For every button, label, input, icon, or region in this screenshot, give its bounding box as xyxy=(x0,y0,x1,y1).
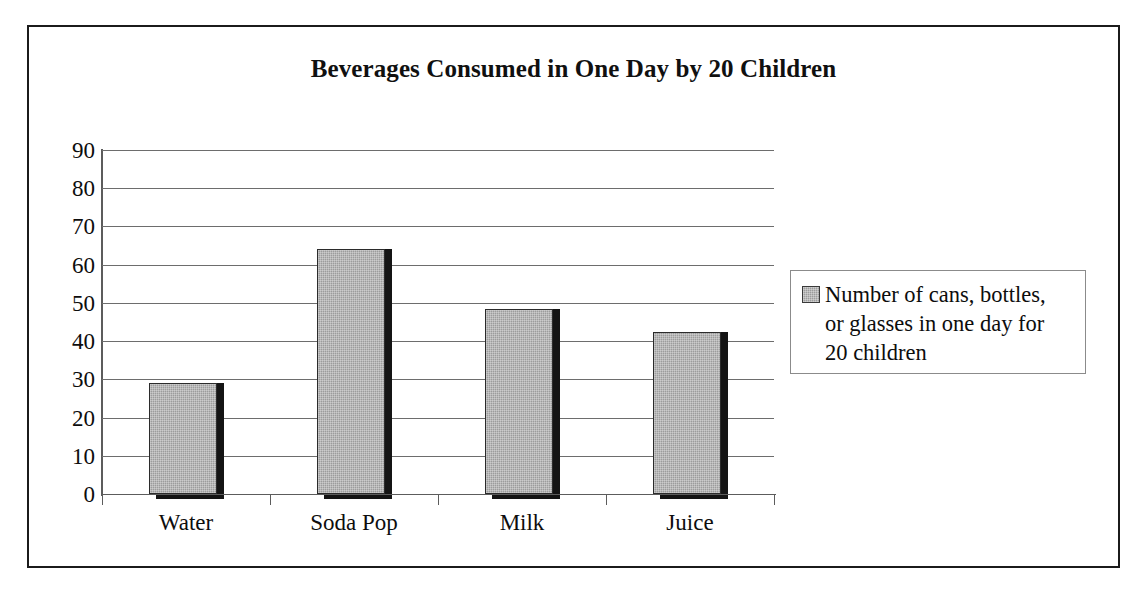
x-axis-line xyxy=(102,494,776,495)
y-axis-tick-label: 30 xyxy=(53,368,95,391)
x-axis-label-water: Water xyxy=(102,509,270,537)
legend-swatch-icon xyxy=(802,286,820,303)
x-axis-tick-mark xyxy=(774,495,775,505)
x-axis-tick-mark xyxy=(270,495,271,505)
y-axis-tick-label: 70 xyxy=(53,215,95,238)
bar-milk[interactable] xyxy=(485,309,553,494)
chart-title: Beverages Consumed in One Day by 20 Chil… xyxy=(29,55,1118,83)
bar-shadow xyxy=(721,332,728,499)
legend-entry: Number of cans, bottles, or glasses in o… xyxy=(802,280,1077,367)
legend-label-line-2: or glasses in one day for xyxy=(825,311,1044,336)
x-axis-label-soda-pop: Soda Pop xyxy=(270,509,438,537)
y-axis-tick-label: 50 xyxy=(53,292,95,315)
bar-juice[interactable] xyxy=(653,332,721,494)
bar-soda-pop[interactable] xyxy=(317,249,385,494)
gridline xyxy=(102,265,774,266)
y-axis-tick-labels: 9080706050403020100 xyxy=(43,150,95,494)
y-axis-tick-label: 90 xyxy=(53,139,95,162)
legend-label: Number of cans, bottles, or glasses in o… xyxy=(825,280,1046,367)
legend-label-line-1: Number of cans, bottles, xyxy=(825,282,1046,307)
y-axis-tick-label: 40 xyxy=(53,330,95,353)
gridline xyxy=(102,150,774,151)
x-axis-tick-mark xyxy=(606,495,607,505)
gridline xyxy=(102,226,774,227)
gridline xyxy=(102,188,774,189)
legend-label-line-3: 20 children xyxy=(825,340,927,365)
x-axis-tick-mark xyxy=(102,495,103,505)
y-axis-tick-label: 60 xyxy=(53,254,95,277)
gridline xyxy=(102,303,774,304)
y-axis-tick-label: 80 xyxy=(53,177,95,200)
bar-shadow xyxy=(385,249,392,499)
bar-shadow xyxy=(217,383,224,499)
plot-area xyxy=(102,150,774,494)
chart-frame: Beverages Consumed in One Day by 20 Chil… xyxy=(27,25,1120,568)
y-axis-tick-label: 10 xyxy=(53,445,95,468)
x-axis-label-milk: Milk xyxy=(438,509,606,537)
y-axis-tick-label: 20 xyxy=(53,407,95,430)
y-axis-tick-label: 0 xyxy=(53,483,95,506)
bar-shadow xyxy=(553,309,560,499)
chart-legend: Number of cans, bottles, or glasses in o… xyxy=(790,270,1086,374)
bar-water[interactable] xyxy=(149,383,217,494)
x-axis-tick-mark xyxy=(438,495,439,505)
x-axis-label-juice: Juice xyxy=(606,509,774,537)
